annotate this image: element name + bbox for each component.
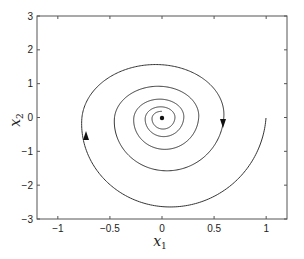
x-tick-label: 1 (263, 223, 269, 234)
direction-arrows (83, 119, 226, 140)
arrow-down-icon (220, 119, 226, 128)
phase-portrait-chart: −1−0.500.51 −3−2−10123 x1 x2 (0, 0, 304, 259)
y-tick-label: −2 (22, 180, 34, 191)
arrow-up-icon (83, 131, 89, 140)
x-tick-label: −0.5 (100, 223, 120, 234)
y-tick-label: 0 (27, 112, 33, 123)
x-tick-label: 0.5 (207, 223, 221, 234)
y-tick-label: 1 (27, 78, 33, 89)
y-axis-ticks: −3−2−10123 (22, 11, 287, 225)
x-tick-label: −1 (52, 223, 64, 234)
y-tick-label: 2 (27, 44, 33, 55)
equilibrium-point (160, 116, 164, 120)
y-axis-label: x2 (7, 113, 25, 127)
y-tick-label: −3 (22, 214, 34, 225)
x-axis-ticks: −1−0.500.51 (52, 16, 269, 234)
y-tick-label: 3 (27, 11, 33, 22)
spiral-trajectory (82, 65, 266, 207)
y-tick-label: −1 (22, 146, 34, 157)
plot-area (82, 65, 266, 207)
x-axis-label: x1 (153, 233, 167, 251)
